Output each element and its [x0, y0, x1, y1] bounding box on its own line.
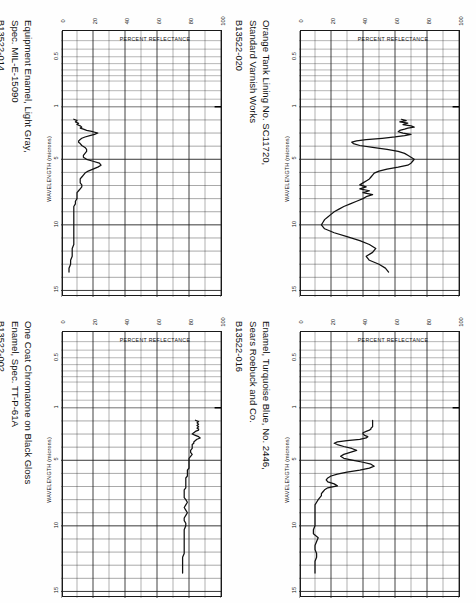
spectral-plot-svg [299, 332, 459, 598]
x-axis-tick-label: 5 [291, 152, 297, 164]
y-axis-tick-label: 40 [124, 14, 130, 28]
x-axis-tick-label: 15 [291, 584, 297, 596]
x-axis-tick-label: 15 [53, 283, 59, 295]
x-axis-tick-label: 10 [53, 519, 59, 531]
plot-area: 0.5151015WAVELENGTH (microns)10080604020… [62, 30, 222, 296]
y-axis-tick-label: 20 [92, 315, 98, 329]
x-axis-tick-label: 10 [53, 218, 59, 230]
x-axis-tick-label: 10 [291, 519, 297, 531]
y-axis-tick-label: 100 [220, 315, 226, 329]
y-axis-title: PERCENT REFLECTANCE [358, 337, 428, 343]
x-axis-title: WAVELENGTH (microns) [46, 136, 52, 202]
panel-title-label: Equipment Enamel, Light Gray, Spec. MIL-… [0, 20, 34, 292]
chart-panel: B13522-014 Equipment Enamel, Light Gray,… [0, 0, 238, 301]
y-axis-tick-label: 20 [92, 14, 98, 28]
x-axis-title: WAVELENGTH (microns) [284, 437, 290, 503]
plot-frame [300, 331, 460, 597]
panel-title-label: One Coat Chromatone on Black Gloss Ename… [0, 321, 34, 593]
plot-area: 0.5151015WAVELENGTH (microns)10080604020… [62, 331, 222, 597]
y-axis-tick-label: 20 [330, 315, 336, 329]
y-axis-tick-label: 60 [156, 315, 162, 329]
y-axis-tick-label: 0 [298, 14, 304, 28]
chart-panel: B13522-016 Enamel, Turquoise Blue, No. 2… [238, 301, 476, 602]
plot-frame [62, 331, 222, 597]
spectral-plot-svg [299, 31, 459, 297]
chart-panel: B13522-020 Orange Tank Lining No. SC1172… [238, 0, 476, 301]
x-axis-tick-label: 1 [291, 100, 297, 112]
x-axis-tick-label: 5 [291, 453, 297, 465]
x-axis-tick-label: 1 [291, 401, 297, 413]
plot-frame [300, 30, 460, 296]
y-axis-tick-label: 100 [458, 315, 464, 329]
y-axis-tick-label: 0 [298, 315, 304, 329]
chart-panel: B13522-002 One Coat Chromatone on Black … [0, 301, 238, 602]
x-axis-title: WAVELENGTH (microns) [284, 136, 290, 202]
plot-frame [62, 30, 222, 296]
plot-area: 0.5151015WAVELENGTH (microns)10080604020… [300, 30, 460, 296]
x-axis-tick-label: 0.5 [53, 50, 59, 62]
y-axis-title: PERCENT REFLECTANCE [120, 337, 190, 343]
x-axis-tick-label: 1 [53, 401, 59, 413]
panel-title-label: Orange Tank Lining No. SC11720, Standard… [238, 20, 272, 292]
x-axis-tick-label: 1 [53, 100, 59, 112]
y-axis-title: PERCENT REFLECTANCE [120, 36, 190, 42]
y-axis-tick-label: 0 [60, 14, 66, 28]
y-axis-tick-label: 80 [426, 315, 432, 329]
y-axis-tick-label: 100 [220, 14, 226, 28]
x-axis-tick-label: 5 [53, 453, 59, 465]
panel-title-label: Enamel, Turquoise Blue, No. 2446, Sears … [238, 321, 272, 593]
x-axis-tick-label: 0.5 [53, 351, 59, 363]
y-axis-tick-label: 40 [124, 315, 130, 329]
y-axis-tick-label: 60 [394, 14, 400, 28]
y-axis-tick-label: 60 [394, 315, 400, 329]
y-axis-tick-label: 40 [362, 315, 368, 329]
y-axis-tick-label: 100 [458, 14, 464, 28]
x-axis-tick-label: 15 [53, 584, 59, 596]
y-axis-tick-label: 20 [330, 14, 336, 28]
x-axis-tick-label: 5 [53, 152, 59, 164]
x-axis-tick-label: 0.5 [291, 50, 297, 62]
y-axis-tick-label: 60 [156, 14, 162, 28]
x-axis-title: WAVELENGTH (microns) [46, 437, 52, 503]
x-axis-tick-label: 15 [291, 283, 297, 295]
spectral-plot-svg [61, 31, 221, 297]
y-axis-tick-label: 80 [188, 14, 194, 28]
x-axis-tick-label: 0.5 [291, 351, 297, 363]
scanned-document-page: B13522-014 Equipment Enamel, Light Gray,… [0, 0, 476, 603]
y-axis-title: PERCENT REFLECTANCE [358, 36, 428, 42]
x-axis-tick-label: 10 [291, 218, 297, 230]
y-axis-tick-label: 80 [188, 315, 194, 329]
y-axis-tick-label: 0 [60, 315, 66, 329]
y-axis-tick-label: 80 [426, 14, 432, 28]
y-axis-tick-label: 40 [362, 14, 368, 28]
plot-area: 0.5151015WAVELENGTH (microns)10080604020… [300, 331, 460, 597]
spectral-plot-svg [61, 332, 221, 598]
